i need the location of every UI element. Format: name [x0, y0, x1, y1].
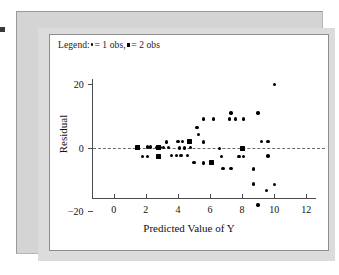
data-point: [149, 145, 152, 148]
data-point: [218, 147, 221, 150]
x-tick-label: 0: [111, 204, 116, 215]
x-tick-label: 8: [240, 204, 245, 215]
x-tick-mark: [178, 194, 179, 199]
data-point: [162, 146, 165, 149]
data-point: [156, 145, 161, 150]
page-edge-mark: [0, 27, 5, 32]
data-point: [189, 146, 192, 149]
x-tick-mark: [210, 194, 211, 199]
data-point: [229, 111, 232, 114]
y-tick-label: 0: [52, 142, 84, 153]
data-point: [192, 161, 195, 164]
data-point: [260, 140, 263, 143]
data-point: [195, 126, 198, 129]
data-point: [252, 167, 255, 170]
data-point: [256, 203, 259, 206]
figure-outer-frame: Legend:= 1 obs,= 2 obs Residual 200−2002…: [16, 11, 323, 254]
data-point: [146, 155, 149, 158]
data-point: [234, 117, 237, 120]
x-tick-mark: [274, 194, 275, 199]
data-point: [202, 161, 205, 164]
x-tick-label: 2: [143, 204, 148, 215]
x-tick-label: 10: [269, 204, 279, 215]
y-tick-label: −20: [52, 205, 84, 216]
x-tick-mark: [114, 194, 115, 199]
data-point: [228, 117, 231, 120]
data-point: [220, 155, 223, 158]
data-point: [135, 145, 140, 150]
data-point: [156, 154, 161, 159]
data-point: [176, 140, 179, 143]
x-tick-mark: [306, 194, 307, 199]
data-point: [273, 183, 276, 186]
data-point: [186, 154, 189, 157]
data-point: [212, 117, 215, 120]
data-point: [175, 154, 178, 157]
x-tick-label: 6: [208, 204, 213, 215]
x-axis-title: Predicted Value of Y: [50, 222, 328, 234]
data-point: [181, 140, 184, 143]
data-point: [242, 117, 245, 120]
data-point: [240, 146, 245, 151]
x-axis-line: [92, 198, 316, 199]
x-tick-mark: [146, 194, 147, 199]
data-point: [229, 167, 232, 170]
data-point: [202, 140, 205, 143]
y-tick-mark: [88, 84, 93, 85]
data-point: [167, 146, 170, 149]
y-tick-mark: [88, 211, 93, 212]
x-tick-label: 12: [301, 204, 311, 215]
y-axis-line: [92, 79, 93, 198]
y-tick-mark: [88, 148, 93, 149]
data-point: [197, 133, 200, 136]
plot-area: Residual 200−20024681012: [50, 35, 329, 251]
data-point: [266, 140, 269, 143]
data-point: [187, 139, 192, 144]
data-point: [265, 189, 268, 192]
chart-card: Legend:= 1 obs,= 2 obs Residual 200−2002…: [49, 34, 329, 251]
x-tick-label: 4: [175, 204, 180, 215]
data-point: [178, 146, 181, 149]
data-point: [209, 160, 214, 165]
data-point: [183, 146, 186, 149]
data-point: [165, 140, 168, 143]
data-point: [273, 83, 276, 86]
data-point: [170, 154, 173, 157]
data-point: [141, 155, 144, 158]
zero-reference-line: [93, 148, 325, 149]
data-point: [256, 111, 259, 114]
y-tick-label: 20: [52, 79, 84, 90]
data-point: [237, 155, 240, 158]
data-point: [221, 167, 224, 170]
data-point: [266, 154, 269, 157]
data-point: [242, 155, 245, 158]
x-tick-mark: [242, 194, 243, 199]
y-axis-title: Residual: [57, 89, 69, 179]
data-point: [179, 154, 182, 157]
data-point: [202, 117, 205, 120]
data-point: [252, 182, 255, 185]
